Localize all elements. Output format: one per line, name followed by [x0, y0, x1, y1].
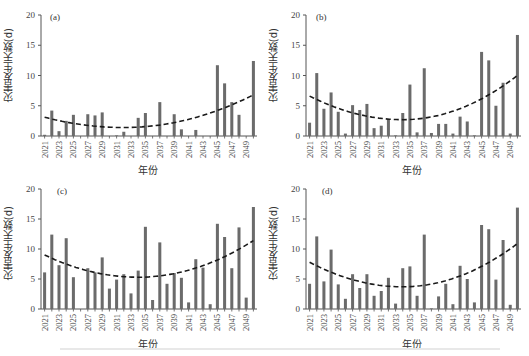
y-tick-label: 20: [291, 184, 301, 194]
bar: [308, 123, 311, 136]
bar: [237, 115, 240, 136]
bar: [315, 236, 318, 309]
bar: [401, 268, 404, 309]
x-tick-label: 2023: [319, 314, 329, 331]
bar: [337, 284, 340, 309]
bar: [230, 268, 233, 309]
bar: [502, 240, 505, 309]
bar: [108, 289, 111, 309]
bar: [129, 293, 132, 309]
y-axis-title-c: 灾害发生天数(d): [1, 206, 16, 280]
bar: [252, 207, 255, 309]
x-tick-label: 2039: [434, 141, 444, 158]
bar: [387, 119, 390, 136]
bar: [223, 237, 226, 309]
bar: [344, 299, 347, 309]
bar: [466, 121, 469, 136]
bar: [72, 115, 75, 136]
y-tick-label: 20: [291, 10, 301, 20]
bar: [137, 118, 140, 136]
bar: [115, 135, 118, 136]
x-tick-label: 2027: [83, 141, 93, 158]
bar: [173, 114, 176, 136]
y-tick-label: 0: [296, 304, 301, 314]
bar: [330, 92, 333, 136]
bar: [122, 274, 125, 309]
x-tick-label: 2021: [40, 314, 50, 331]
bar: [101, 112, 104, 136]
bar: [423, 68, 426, 136]
y-tick-label: 5: [296, 274, 301, 284]
bar: [430, 308, 433, 309]
bar: [57, 265, 60, 309]
bar: [65, 238, 68, 309]
x-tick-label: 2037: [155, 314, 165, 331]
bar: [416, 132, 419, 136]
x-tick-label: 2033: [126, 314, 136, 331]
x-tick-label: 2047: [227, 314, 237, 331]
bar: [194, 130, 197, 136]
bar: [373, 296, 376, 309]
x-tick-label: 2029: [362, 141, 372, 158]
y-tick-label: 15: [26, 214, 36, 224]
x-tick-label: 2031: [112, 141, 122, 158]
x-axis-title-a: 年份: [138, 162, 158, 177]
bar: [451, 134, 454, 136]
x-tick-label: 2045: [212, 314, 222, 331]
bar: [365, 104, 368, 136]
bar: [437, 296, 440, 309]
bar: [43, 272, 46, 309]
bar: [115, 280, 118, 309]
bar: [466, 279, 469, 309]
chart-panel-c: 0510152020212023202520272029203120332035…: [0, 178, 265, 356]
x-tick-label: 2039: [434, 314, 444, 331]
bar: [43, 135, 46, 136]
bar: [380, 126, 383, 136]
x-tick-label: 2039: [169, 141, 179, 158]
bar: [158, 242, 161, 309]
panel-label-a: (a): [50, 12, 60, 22]
bar: [330, 250, 333, 309]
x-tick-label: 2025: [333, 314, 343, 331]
x-tick-label: 2037: [419, 141, 429, 158]
bar: [509, 305, 512, 309]
x-tick-label: 2023: [54, 314, 64, 331]
bar: [72, 277, 75, 309]
bar: [65, 121, 68, 136]
bar: [394, 304, 397, 309]
x-tick-label: 2045: [477, 141, 487, 158]
x-tick-label: 2027: [348, 141, 358, 158]
bar: [459, 266, 462, 309]
panel-label-c: (c): [57, 186, 67, 196]
bar: [444, 124, 447, 136]
x-tick-label: 2043: [198, 141, 208, 158]
bar: [408, 266, 411, 309]
bar: [459, 117, 462, 136]
panel-label-d: (d): [322, 186, 333, 196]
panel-label-b: (b): [316, 12, 327, 22]
x-tick-label: 2029: [97, 314, 107, 331]
x-tick-label: 2047: [227, 141, 237, 158]
bar: [430, 133, 433, 136]
x-tick-label: 2027: [348, 314, 358, 331]
bar: [516, 35, 519, 136]
x-tick-label: 2049: [241, 314, 251, 331]
x-tick-label: 2049: [241, 141, 251, 158]
bar: [308, 284, 311, 309]
trend-line-dashed: [310, 76, 518, 120]
bar: [101, 257, 104, 309]
y-tick-label: 0: [31, 131, 36, 141]
bar: [173, 273, 176, 309]
bar: [180, 278, 183, 309]
x-tick-label: 2031: [112, 314, 122, 331]
x-tick-label: 2045: [212, 141, 222, 158]
x-tick-label: 2035: [405, 141, 415, 158]
bar: [245, 298, 248, 309]
bar: [494, 106, 497, 136]
bar: [408, 85, 411, 136]
x-tick-label: 2035: [140, 314, 150, 331]
bar: [93, 272, 96, 309]
x-tick-label: 2043: [198, 314, 208, 331]
x-tick-label: 2031: [376, 141, 386, 158]
y-tick-label: 15: [291, 40, 301, 50]
